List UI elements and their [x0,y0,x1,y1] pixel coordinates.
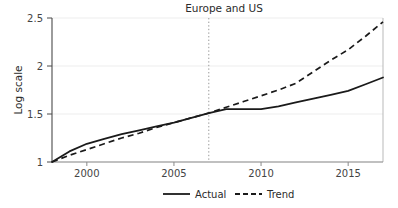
x-tick-label: 2000 [74,168,99,179]
line-chart: 11.522.5 2000200520102015 Log scale Euro… [0,0,398,208]
y-axis-title: Log scale [12,65,24,114]
x-tick-label: 2015 [335,168,360,179]
series-line-actual [52,78,383,162]
x-axis-ticks: 2000200520102015 [74,162,361,179]
x-tick-label: 2005 [161,168,186,179]
y-axis-ticks: 11.522.5 [27,13,52,168]
y-tick-label: 2.5 [27,13,43,24]
y-tick-label: 1.5 [27,109,43,120]
series-line-trend [52,22,383,162]
chart-legend: Actual Trend [163,189,294,200]
y-tick-label: 2 [37,61,43,72]
legend-label-trend: Trend [266,189,294,200]
x-tick-label: 2010 [248,168,273,179]
chart-container: 11.522.5 2000200520102015 Log scale Euro… [0,0,398,208]
legend-label-actual: Actual [195,189,226,200]
y-tick-label: 1 [37,157,43,168]
chart-title: Europe and US [185,2,263,14]
